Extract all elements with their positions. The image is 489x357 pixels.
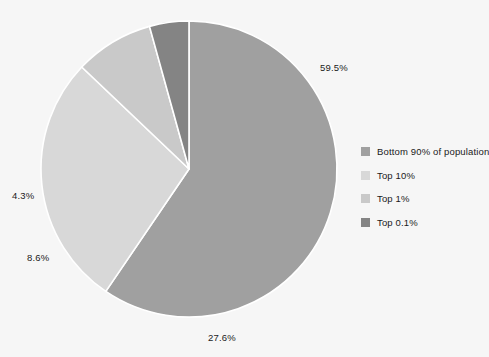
legend-item-label: Top 1% <box>377 193 410 204</box>
legend-item[interactable]: Top 0.1% <box>361 217 487 228</box>
legend-item[interactable]: Top 10% <box>361 170 487 181</box>
pie-slice-label: 27.6% <box>208 332 236 343</box>
pie-slice-label: 59.5% <box>320 62 348 73</box>
legend-item-label: Top 10% <box>377 170 415 181</box>
chart-legend: Bottom 90% of populationTop 10%Top 1%Top… <box>361 146 487 240</box>
legend-swatch-icon <box>361 147 370 156</box>
legend-item-label: Bottom 90% of population <box>377 146 489 157</box>
pie-slice-label: 4.3% <box>12 190 34 201</box>
legend-swatch-icon <box>361 218 370 227</box>
legend-swatch-icon <box>361 171 370 180</box>
legend-swatch-icon <box>361 194 370 203</box>
pie-slice-label: 8.6% <box>27 252 49 263</box>
legend-item-label: Top 0.1% <box>377 217 418 228</box>
legend-item[interactable]: Bottom 90% of population <box>361 146 487 157</box>
legend-item[interactable]: Top 1% <box>361 193 487 204</box>
